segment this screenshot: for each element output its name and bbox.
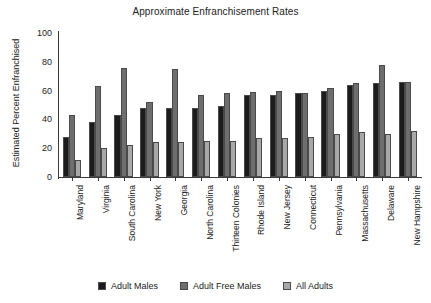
bar-group: [399, 33, 417, 177]
x-tick-mark: [382, 177, 383, 181]
chart-figure: Approximate Enfranchisement Rates Estima…: [0, 0, 431, 303]
x-tick-label: New Hampshire: [412, 185, 422, 245]
x-tick-mark: [279, 177, 280, 181]
x-tick-mark: [150, 177, 151, 181]
legend-label: Adult Males: [111, 281, 158, 291]
bar: [282, 138, 288, 177]
x-tick-label: Maryland: [75, 185, 85, 220]
chart-legend: Adult MalesAdult Free MalesAll Adults: [0, 281, 431, 291]
plot-area: 020406080100 MarylandVirginiaSouth Carol…: [59, 33, 421, 177]
x-tick-label: Georgia: [179, 185, 189, 215]
bar-group: [347, 33, 365, 177]
bar: [359, 132, 365, 177]
bar-group: [192, 33, 210, 177]
bar-group: [63, 33, 81, 177]
x-tick-mark: [227, 177, 228, 181]
x-tick-label: Connecticut: [308, 185, 318, 230]
x-tick-label: Thirteen Colonies: [231, 185, 241, 252]
bar: [127, 145, 133, 177]
bar: [411, 131, 417, 177]
y-tick-label: 0: [0, 172, 59, 182]
bar: [308, 137, 314, 177]
y-axis-title: Estimated Percent Enfranchised: [9, 31, 23, 176]
x-tick-mark: [98, 177, 99, 181]
bar: [178, 142, 184, 177]
bar-group: [244, 33, 262, 177]
bar: [75, 160, 81, 177]
bar: [334, 134, 340, 177]
x-tick-mark: [124, 177, 125, 181]
x-tick-label: Massachusetts: [360, 185, 370, 242]
bar-group: [166, 33, 184, 177]
bar: [385, 134, 391, 177]
chart-title: Approximate Enfranchisement Rates: [0, 6, 431, 17]
x-tick-mark: [356, 177, 357, 181]
y-tick-label: 80: [0, 57, 59, 67]
bar-group: [89, 33, 107, 177]
bar-group: [295, 33, 313, 177]
legend-item[interactable]: All Adults: [283, 281, 333, 291]
legend-swatch-icon: [180, 282, 188, 290]
legend-label: All Adults: [296, 281, 333, 291]
x-tick-mark: [408, 177, 409, 181]
x-tick-mark: [331, 177, 332, 181]
legend-item[interactable]: Adult Free Males: [180, 281, 261, 291]
legend-label: Adult Free Males: [193, 281, 261, 291]
bar: [153, 142, 159, 177]
x-tick-label: Virginia: [101, 185, 111, 213]
legend-swatch-icon: [98, 282, 106, 290]
bar-group: [140, 33, 158, 177]
x-tick-mark: [253, 177, 254, 181]
x-tick-label: Rhode Island: [256, 185, 266, 235]
bar-group: [321, 33, 339, 177]
x-tick-label: New York: [153, 185, 163, 221]
bar-group: [114, 33, 132, 177]
x-tick-mark: [175, 177, 176, 181]
bar: [204, 141, 210, 177]
x-tick-label: Delaware: [386, 185, 396, 221]
bar-group: [373, 33, 391, 177]
x-axis-line: [58, 177, 422, 178]
x-tick-label: Pennsylvania: [334, 185, 344, 236]
bar-series-container: [59, 33, 421, 177]
legend-swatch-icon: [283, 282, 291, 290]
x-tick-mark: [201, 177, 202, 181]
bar-group: [218, 33, 236, 177]
bar: [101, 148, 107, 177]
x-tick-mark: [72, 177, 73, 181]
y-tick-label: 100: [0, 28, 59, 38]
x-tick-mark: [305, 177, 306, 181]
x-tick-label: New Jersey: [282, 185, 292, 229]
y-tick-label: 60: [0, 86, 59, 96]
y-tick-label: 20: [0, 143, 59, 153]
bar: [256, 138, 262, 177]
bar: [230, 141, 236, 177]
x-tick-label: South Carolina: [127, 185, 137, 241]
x-tick-label: North Carolina: [205, 185, 215, 240]
y-tick-label: 40: [0, 114, 59, 124]
bar-group: [270, 33, 288, 177]
legend-item[interactable]: Adult Males: [98, 281, 158, 291]
